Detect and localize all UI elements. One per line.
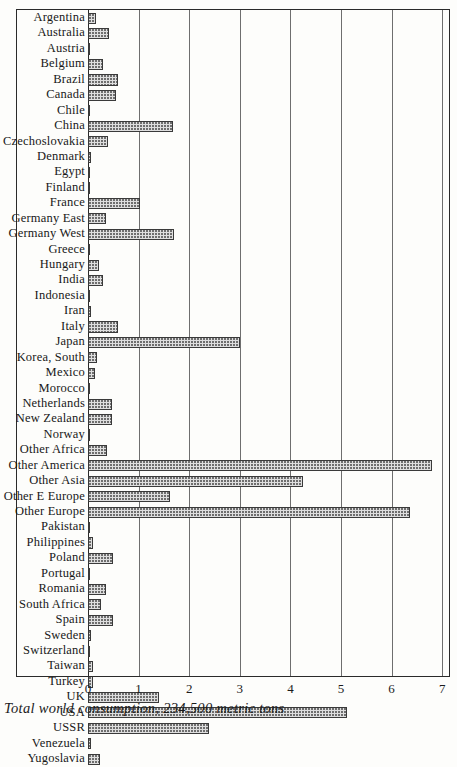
bar-row: Brazil — [0, 73, 457, 88]
bar — [88, 399, 112, 410]
category-label: Iran — [64, 303, 85, 318]
category-label: Taiwan — [47, 658, 85, 673]
bar-row: Japan — [0, 335, 457, 350]
bar-row: Austria — [0, 42, 457, 57]
category-label: Australia — [37, 25, 85, 40]
bar-row: Other America — [0, 459, 457, 474]
category-label: France — [50, 195, 85, 210]
bar — [88, 383, 90, 394]
bar — [88, 491, 170, 502]
bar — [88, 352, 97, 363]
bar-row: Other Asia — [0, 474, 457, 489]
bar-row: Greece — [0, 243, 457, 258]
bar — [88, 615, 113, 626]
bar-row: Czechoslovakia — [0, 135, 457, 150]
bar-row: India — [0, 273, 457, 288]
bar-row: Belgium — [0, 57, 457, 72]
bar-rows: ArgentinaAustraliaAustriaBelgiumBrazilCa… — [0, 11, 457, 767]
category-label: Venezuela — [32, 736, 85, 751]
bar — [88, 182, 90, 193]
bar — [88, 522, 90, 533]
bar-row: Other E Europe — [0, 490, 457, 505]
bar-row: Other Africa — [0, 443, 457, 458]
category-label: Denmark — [37, 149, 85, 164]
x-tick-label: 2 — [174, 681, 204, 697]
category-label: Morocco — [38, 381, 85, 396]
bar-row: France — [0, 196, 457, 211]
category-label: Korea, South — [17, 350, 85, 365]
bar — [88, 121, 173, 132]
bar — [88, 723, 209, 734]
bar — [88, 337, 240, 348]
bar-row: Morocco — [0, 382, 457, 397]
bar — [88, 321, 118, 332]
bar — [88, 136, 108, 147]
bar — [88, 59, 103, 70]
bar-row: Sweden — [0, 629, 457, 644]
x-tick-label: 7 — [427, 681, 457, 697]
category-label: Mexico — [46, 365, 85, 380]
bar-row: Netherlands — [0, 397, 457, 412]
category-label: Germany East — [11, 211, 85, 226]
bar-row: China — [0, 119, 457, 134]
bar — [88, 290, 90, 301]
category-label: Spain — [56, 612, 85, 627]
bar — [88, 553, 113, 564]
bar — [88, 152, 91, 163]
bar — [88, 476, 303, 487]
category-label: Switzerland — [23, 643, 85, 658]
bar — [88, 738, 91, 749]
category-label: Argentina — [33, 10, 85, 25]
bar — [88, 584, 106, 595]
bar — [88, 460, 432, 471]
bar-row: Iran — [0, 304, 457, 319]
bar-row: Canada — [0, 88, 457, 103]
category-label: New Zealand — [16, 411, 85, 426]
category-label: India — [58, 272, 85, 287]
category-label: Other Asia — [29, 473, 85, 488]
x-tick-label: 6 — [377, 681, 407, 697]
bar — [88, 167, 90, 178]
chart-caption: Total world consumption, 234,500 metric … — [4, 700, 285, 717]
bar-row: Indonesia — [0, 289, 457, 304]
bar-row: Germany East — [0, 212, 457, 227]
x-tick-label: 3 — [225, 681, 255, 697]
bar-row: Italy — [0, 320, 457, 335]
bar — [88, 754, 100, 765]
category-label: Japan — [56, 334, 85, 349]
bar-row: Romania — [0, 582, 457, 597]
bar-row: Venezuela — [0, 737, 457, 752]
x-axis-tick-labels: 01234567 — [0, 681, 457, 701]
x-axis-line — [16, 676, 450, 677]
bar-row: Denmark — [0, 150, 457, 165]
x-tick-label: 4 — [275, 681, 305, 697]
bar-row: Finland — [0, 181, 457, 196]
bar — [88, 445, 107, 456]
bar — [88, 507, 410, 518]
category-label: Austria — [47, 41, 85, 56]
bar — [88, 229, 174, 240]
bar — [88, 244, 90, 255]
bar — [88, 74, 118, 85]
bar — [88, 90, 116, 101]
bar-row: Egypt — [0, 165, 457, 180]
category-label: Indonesia — [35, 288, 85, 303]
x-tick-label: 5 — [326, 681, 356, 697]
bar — [88, 568, 90, 579]
bar — [88, 260, 99, 271]
category-label: Italy — [61, 319, 85, 334]
x-tick-label: 1 — [124, 681, 154, 697]
bar — [88, 43, 90, 54]
category-label: Pakistan — [41, 519, 85, 534]
bar-row: Hungary — [0, 258, 457, 273]
bar-row: Germany West — [0, 227, 457, 242]
bar — [88, 599, 101, 610]
category-label: Greece — [48, 242, 85, 257]
bar-row: USSR — [0, 721, 457, 736]
x-tick-label: 0 — [73, 681, 103, 697]
category-label: Finland — [45, 180, 85, 195]
bar — [88, 414, 112, 425]
bar — [88, 646, 90, 657]
